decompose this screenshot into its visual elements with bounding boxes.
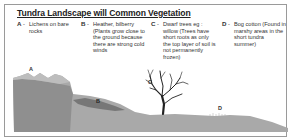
tundra-landscape-illustration	[0, 0, 292, 140]
dwarf-tree	[146, 70, 188, 114]
label-a: A	[29, 66, 33, 72]
rock-face	[13, 79, 73, 132]
label-d: D	[218, 105, 222, 111]
label-b: B	[96, 98, 100, 104]
label-c: C	[148, 79, 152, 85]
